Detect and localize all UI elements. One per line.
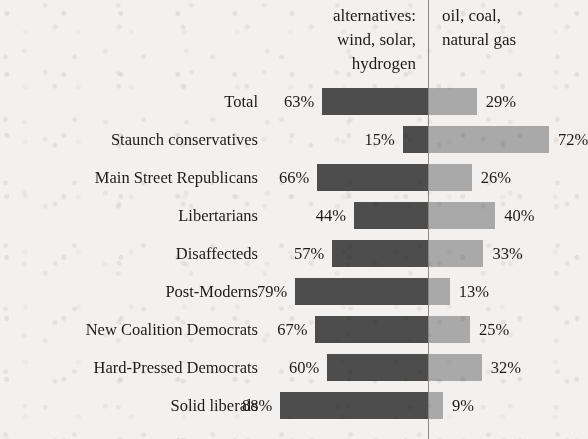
bar-alternatives: [354, 202, 428, 229]
bar-alternatives: [315, 316, 428, 343]
chart-row: Libertarians44%40%: [0, 202, 588, 229]
value-label-fossil-fuels: 26%: [481, 168, 511, 188]
bar-alternatives: [280, 392, 428, 419]
value-label-fossil-fuels: 9%: [452, 396, 474, 416]
value-label-alternatives: 79%: [257, 282, 287, 302]
chart-row: Staunch conservatives15%72%: [0, 126, 588, 153]
value-label-alternatives: 88%: [242, 396, 272, 416]
legend-label-alternatives: alternatives: wind, solar, hydrogen: [246, 4, 416, 76]
chart-header: alternatives: wind, solar, hydrogen oil,…: [0, 0, 588, 82]
chart-row: Hard-Pressed Democrats60%32%: [0, 354, 588, 381]
value-label-alternatives: 57%: [294, 244, 324, 264]
value-label-alternatives: 60%: [289, 358, 319, 378]
value-label-fossil-fuels: 72%: [558, 130, 588, 150]
row-category-label: New Coalition Democrats: [86, 320, 258, 340]
value-label-alternatives: 63%: [284, 92, 314, 112]
row-category-label: Staunch conservatives: [111, 130, 258, 150]
bar-alternatives: [327, 354, 428, 381]
chart-row: Post-Moderns79%13%: [0, 278, 588, 305]
bar-fossil-fuels: [428, 354, 482, 381]
chart-row: New Coalition Democrats67%25%: [0, 316, 588, 343]
bar-fossil-fuels: [428, 202, 495, 229]
chart-row: Main Street Republicans66%26%: [0, 164, 588, 191]
bar-fossil-fuels: [428, 240, 483, 267]
bar-fossil-fuels: [428, 88, 477, 115]
value-label-fossil-fuels: 32%: [491, 358, 521, 378]
chart-row: Total63%29%: [0, 88, 588, 115]
legend-label-fossil-fuels: oil, coal, natural gas: [442, 4, 588, 52]
bar-alternatives: [332, 240, 428, 267]
bar-fossil-fuels: [428, 392, 443, 419]
row-category-label: Libertarians: [178, 206, 258, 226]
bar-fossil-fuels: [428, 316, 470, 343]
value-label-fossil-fuels: 33%: [492, 244, 522, 264]
bar-fossil-fuels: [428, 164, 472, 191]
value-label-alternatives: 67%: [277, 320, 307, 340]
bar-alternatives: [322, 88, 428, 115]
diverging-bar-chart: alternatives: wind, solar, hydrogen oil,…: [0, 0, 588, 439]
bar-alternatives: [295, 278, 428, 305]
row-category-label: Post-Moderns: [165, 282, 258, 302]
value-label-fossil-fuels: 25%: [479, 320, 509, 340]
bar-alternatives: [317, 164, 428, 191]
row-category-label: Total: [224, 92, 258, 112]
value-label-alternatives: 66%: [279, 168, 309, 188]
value-label-fossil-fuels: 13%: [459, 282, 489, 302]
value-label-alternatives: 44%: [316, 206, 346, 226]
chart-row: Solid liberals88%9%: [0, 392, 588, 419]
row-category-label: Hard-Pressed Democrats: [94, 358, 258, 378]
bar-fossil-fuels: [428, 278, 450, 305]
value-label-alternatives: 15%: [365, 130, 395, 150]
chart-row: Disaffecteds57%33%: [0, 240, 588, 267]
value-label-fossil-fuels: 40%: [504, 206, 534, 226]
bar-alternatives: [403, 126, 428, 153]
bar-fossil-fuels: [428, 126, 549, 153]
row-category-label: Disaffecteds: [176, 244, 258, 264]
value-label-fossil-fuels: 29%: [486, 92, 516, 112]
row-category-label: Main Street Republicans: [95, 168, 258, 188]
